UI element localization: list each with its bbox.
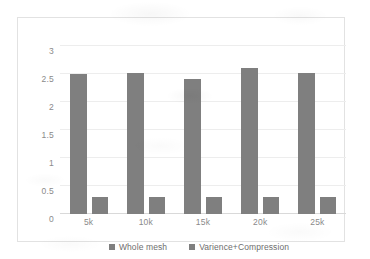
bar-group bbox=[174, 46, 231, 214]
y-axis-tick-label: 2 bbox=[49, 101, 54, 102]
chart-legend: Whole meshVarience+Compression bbox=[35, 242, 363, 252]
legend-label: Whole mesh bbox=[119, 242, 167, 252]
legend-swatch-icon bbox=[189, 244, 195, 250]
legend-swatch-icon bbox=[109, 244, 115, 250]
bar-whole-mesh-25k bbox=[298, 73, 315, 214]
plot-area: 00.511.522.53 bbox=[60, 46, 346, 214]
y-axis-tick-label: 1.5 bbox=[42, 129, 54, 130]
bar-varience-compression-15k bbox=[206, 197, 222, 214]
x-axis-tick-label: 25k bbox=[289, 217, 346, 227]
bar-varience-compression-5k bbox=[92, 197, 108, 214]
bar-group bbox=[232, 46, 289, 214]
y-axis-tick-label: 3 bbox=[49, 45, 54, 46]
y-axis-tick-label: 2.5 bbox=[42, 73, 54, 74]
legend-item-1[interactable]: Varience+Compression bbox=[189, 242, 289, 252]
bar-group bbox=[117, 46, 174, 214]
chart-frame: 00.511.522.53 5k10k15k20k25k Whole meshV… bbox=[17, 17, 345, 242]
x-axis-tick-label: 15k bbox=[174, 217, 231, 227]
bar-varience-compression-25k bbox=[320, 197, 336, 214]
x-axis-tick-label: 5k bbox=[60, 217, 117, 227]
category-axis: 5k10k15k20k25k bbox=[60, 217, 346, 227]
bar-varience-compression-10k bbox=[149, 197, 165, 214]
y-axis-tick-label: 0.5 bbox=[42, 185, 54, 186]
legend-label: Varience+Compression bbox=[199, 242, 289, 252]
y-axis-tick-label: 1 bbox=[49, 157, 54, 158]
bar-whole-mesh-15k bbox=[184, 79, 201, 214]
bar-group bbox=[60, 46, 117, 214]
y-axis-tick-label: 0 bbox=[49, 213, 54, 214]
bar-whole-mesh-5k bbox=[70, 74, 87, 214]
x-axis-tick-label: 20k bbox=[232, 217, 289, 227]
bars-group bbox=[60, 46, 346, 214]
bar-varience-compression-20k bbox=[263, 197, 279, 214]
bar-whole-mesh-10k bbox=[127, 73, 144, 214]
bar-whole-mesh-20k bbox=[241, 68, 258, 214]
bar-group bbox=[289, 46, 346, 214]
legend-item-0[interactable]: Whole mesh bbox=[109, 242, 167, 252]
x-axis-tick-label: 10k bbox=[117, 217, 174, 227]
